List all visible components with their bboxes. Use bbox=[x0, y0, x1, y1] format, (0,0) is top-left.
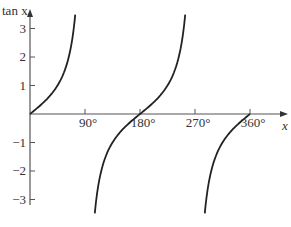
y-label-text: tan x bbox=[2, 3, 28, 18]
y-tick-label: −1 bbox=[12, 135, 26, 150]
y-tick-label: 2 bbox=[20, 49, 27, 64]
x-ticks: 90°180°270°360° bbox=[79, 109, 265, 130]
y-axis-label: tan x bbox=[2, 3, 28, 18]
x-tick-label: 180° bbox=[131, 115, 156, 130]
y-tick-label: 1 bbox=[20, 78, 27, 93]
x-tick-label: 360° bbox=[241, 115, 266, 130]
x-axis-arrow-icon bbox=[280, 111, 288, 117]
x-axis-label: x bbox=[281, 118, 288, 133]
tan-x-chart: tan x x 90°180°270°360° −3−2−1123 bbox=[0, 0, 291, 227]
y-tick-label: −2 bbox=[12, 163, 26, 178]
x-tick-label: 90° bbox=[79, 115, 97, 130]
y-axis-arrow-icon bbox=[27, 9, 33, 17]
tan-curve-branch bbox=[30, 15, 75, 114]
y-tick-label: 3 bbox=[20, 21, 27, 36]
x-tick-label: 270° bbox=[186, 115, 211, 130]
y-tick-label: −3 bbox=[12, 192, 26, 207]
